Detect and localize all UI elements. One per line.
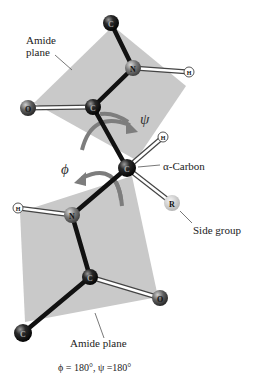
atom-h-alpha: H (158, 132, 168, 142)
label-alpha-carbon: α-Carbon (163, 160, 205, 172)
atom-r-side-group: R (164, 195, 180, 211)
atom-c-alpha: C (118, 159, 136, 177)
svg-text:H: H (161, 135, 166, 141)
label-side-group: Side group (193, 224, 241, 236)
atom-h-top: H (184, 67, 194, 77)
svg-text:N: N (130, 65, 136, 74)
label-amide-plane-top-line1: Amide (26, 34, 56, 46)
atom-c-carbonyl-top: C (85, 99, 101, 115)
svg-text:N: N (69, 212, 75, 221)
atom-c-carbonyl-bottom: C (82, 269, 98, 285)
svg-text:C: C (87, 274, 93, 283)
caption-torsion-angles: ϕ = 180°, ψ =180° (58, 362, 131, 373)
phi-arrowhead-icon (74, 172, 86, 186)
phi-symbol: ϕ (61, 162, 69, 177)
atom-o-bottom: O (152, 290, 168, 306)
atom-n-top: N (125, 60, 141, 76)
svg-text:H: H (187, 70, 192, 76)
atom-c-bottom: C (14, 324, 32, 342)
atom-o-top: O (20, 100, 36, 116)
svg-text:H: H (16, 206, 21, 212)
svg-text:C: C (108, 20, 114, 29)
atom-h-bottom: H (13, 203, 23, 213)
label-amide-plane-top-line2: plane (26, 46, 50, 58)
svg-text:O: O (25, 105, 31, 114)
psi-symbol: ψ (140, 112, 149, 127)
svg-text:O: O (157, 295, 163, 304)
svg-text:C: C (124, 165, 130, 174)
svg-text:C: C (90, 104, 96, 113)
svg-text:R: R (169, 200, 175, 209)
atom-c-top: C (103, 15, 119, 31)
atom-n-bottom: N (64, 207, 80, 223)
svg-text:C: C (20, 330, 26, 339)
label-amide-plane-bottom: Amide plane (70, 337, 127, 349)
